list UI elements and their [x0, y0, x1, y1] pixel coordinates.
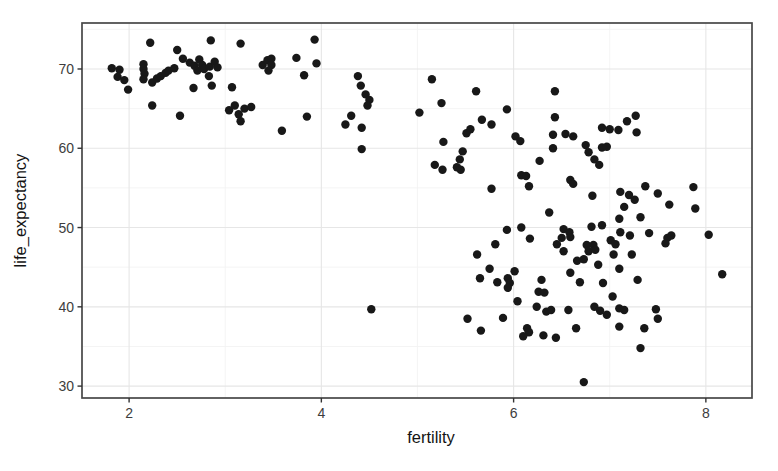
- data-point: [459, 147, 467, 155]
- data-point: [665, 200, 673, 208]
- data-point: [124, 85, 132, 93]
- data-point: [549, 144, 557, 152]
- data-point: [415, 108, 423, 116]
- data-point: [463, 315, 471, 323]
- data-point: [363, 101, 371, 109]
- data-point: [616, 228, 624, 236]
- data-point: [609, 250, 617, 258]
- data-point: [473, 250, 481, 258]
- data-point: [641, 182, 649, 190]
- data-point: [472, 87, 480, 95]
- data-point: [357, 81, 365, 89]
- data-point: [594, 261, 602, 269]
- data-point: [358, 145, 366, 153]
- data-point: [510, 267, 518, 275]
- y-tick-label: 50: [58, 220, 74, 236]
- x-tick-label: 6: [510, 405, 518, 421]
- data-point: [176, 112, 184, 120]
- data-point: [522, 172, 530, 180]
- data-point: [569, 132, 577, 140]
- plot-panel: [82, 23, 752, 398]
- data-point: [503, 226, 511, 234]
- data-point: [170, 64, 178, 72]
- data-point: [499, 314, 507, 322]
- data-point: [547, 306, 555, 314]
- scatter-figure: 24683040506070 fertility life_expectancy: [0, 0, 778, 471]
- data-point: [108, 64, 116, 72]
- data-point: [553, 240, 561, 248]
- data-point: [551, 113, 559, 121]
- data-point: [620, 203, 628, 211]
- data-point: [572, 324, 580, 332]
- data-point: [516, 137, 524, 145]
- data-point: [549, 131, 557, 139]
- data-point: [367, 305, 375, 313]
- data-point: [603, 143, 611, 151]
- y-tick-label: 40: [58, 299, 74, 315]
- y-tick-label: 70: [58, 61, 74, 77]
- data-point: [189, 84, 197, 92]
- data-point: [478, 116, 486, 124]
- data-point: [705, 231, 713, 239]
- data-point: [533, 303, 541, 311]
- data-point: [652, 305, 660, 313]
- data-point: [525, 182, 533, 190]
- fertility-life-expectancy-scatter: 24683040506070 fertility life_expectancy: [0, 0, 778, 471]
- data-point: [631, 196, 639, 204]
- data-point: [587, 223, 595, 231]
- data-point: [491, 240, 499, 248]
- data-point: [540, 288, 548, 296]
- data-point: [208, 81, 216, 89]
- data-point: [564, 306, 572, 314]
- data-point: [628, 250, 636, 258]
- data-point: [539, 331, 547, 339]
- data-point: [569, 180, 577, 188]
- data-point: [457, 166, 465, 174]
- data-point: [300, 71, 308, 79]
- data-point: [264, 66, 272, 74]
- data-point: [626, 231, 634, 239]
- data-point: [236, 39, 244, 47]
- data-point: [146, 39, 154, 47]
- x-axis-title: fertility: [407, 428, 455, 446]
- data-point: [310, 35, 318, 43]
- data-point: [493, 278, 501, 286]
- data-point: [247, 103, 255, 111]
- data-point: [640, 324, 648, 332]
- data-point: [431, 161, 439, 169]
- data-point: [576, 278, 584, 286]
- data-point: [513, 297, 521, 305]
- data-point: [616, 188, 624, 196]
- data-point: [213, 63, 221, 71]
- data-point: [354, 72, 362, 80]
- data-point: [566, 269, 574, 277]
- data-point: [205, 72, 213, 80]
- data-point: [636, 344, 644, 352]
- data-point: [236, 117, 244, 125]
- data-point: [477, 326, 485, 334]
- data-point: [598, 124, 606, 132]
- data-point: [526, 234, 534, 242]
- data-point: [620, 306, 628, 314]
- data-point: [358, 124, 366, 132]
- x-tick-label: 2: [125, 405, 133, 421]
- data-point: [623, 117, 631, 125]
- gridlines: [82, 23, 752, 398]
- data-point: [148, 101, 156, 109]
- data-point: [654, 315, 662, 323]
- data-point: [667, 231, 675, 239]
- data-point: [632, 112, 640, 120]
- data-point: [535, 157, 543, 165]
- data-point: [292, 54, 300, 62]
- data-point: [228, 83, 236, 91]
- data-point: [632, 128, 640, 136]
- data-point: [608, 292, 616, 300]
- data-point: [615, 215, 623, 223]
- data-point: [428, 75, 436, 83]
- data-point: [599, 279, 607, 287]
- data-point: [519, 332, 527, 340]
- data-point: [312, 59, 320, 67]
- data-point: [718, 270, 726, 278]
- data-point: [231, 101, 239, 109]
- data-point: [611, 240, 619, 248]
